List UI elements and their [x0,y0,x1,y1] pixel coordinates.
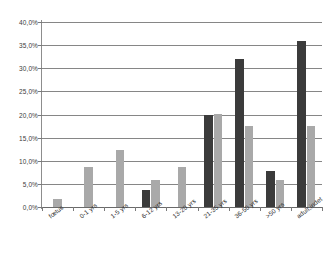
x-axis-category-label: >50 yrs [264,201,286,220]
x-axis-category-label: adult,indet [295,195,323,219]
x-axis-category-label: 13-20 yrs [171,197,197,219]
x-axis-category-label: fœtus [47,204,65,220]
x-axis-category-label: 36-50 yrs [233,197,259,219]
x-axis-labels: fœtus0-1 yrs1-5 yrs6-12 yrs13-20 yrs21-3… [0,0,335,266]
x-axis-category-label: 6-12 yrs [140,199,163,219]
x-axis-category-label: 1-5 yrs [109,202,129,220]
x-axis-category-label: 0-1 yrs [78,202,98,220]
bar-chart: 40,0%35,0%30,0%25,0%20,0%15,0%10,0%5,0%0… [0,0,335,266]
x-axis-category-label: 21-35 yrs [202,197,228,219]
